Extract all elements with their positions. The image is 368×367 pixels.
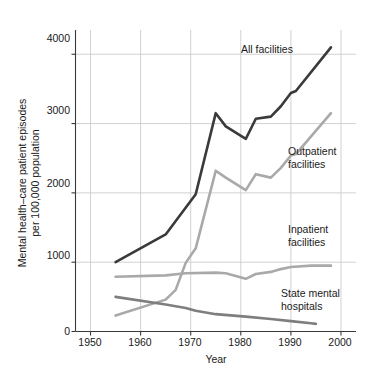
x-tick-label-2000: 2000 <box>328 336 352 348</box>
annotation-outpatient-line1: Outpatient <box>288 145 337 157</box>
x-tick-label-1970: 1970 <box>178 336 202 348</box>
y-tick-label-1000: 1000 <box>47 249 71 261</box>
x-tick-label-1950: 1950 <box>78 336 102 348</box>
y-tick-label-4000: 4000 <box>47 32 71 44</box>
series-line-outpatient-facilities <box>116 113 331 315</box>
y-tick-label-3000: 3000 <box>47 104 71 116</box>
line-chart: 4000 3000 2000 1000 0 1950 1960 1970 198… <box>0 0 368 367</box>
annotation-inpatient-line2: facilities <box>288 236 325 248</box>
y-tick-label-0: 0 <box>64 325 70 337</box>
y-tick-label-2000: 2000 <box>47 177 71 189</box>
annotation-outpatient-line2: facilities <box>288 158 325 170</box>
x-tick-label-1990: 1990 <box>278 336 302 348</box>
annotation-state-line1: State mental <box>281 287 340 299</box>
x-axis-title: Year <box>205 353 227 365</box>
x-tick-label-1960: 1960 <box>128 336 152 348</box>
annotation-all-facilities: All facilities <box>241 43 293 55</box>
chart-figure: 4000 3000 2000 1000 0 1950 1960 1970 198… <box>0 0 368 367</box>
y-axis-title-line2: per 100,000 population <box>29 129 41 237</box>
x-tick-label-1980: 1980 <box>228 336 252 348</box>
annotation-state-line2: hospitals <box>281 300 322 312</box>
series-line-inpatient-facilities <box>116 266 331 279</box>
series-lines <box>116 47 331 324</box>
annotation-inpatient-line1: Inpatient <box>288 223 328 235</box>
y-axis-title-line1: Mental health–care patient episodes <box>16 99 28 268</box>
